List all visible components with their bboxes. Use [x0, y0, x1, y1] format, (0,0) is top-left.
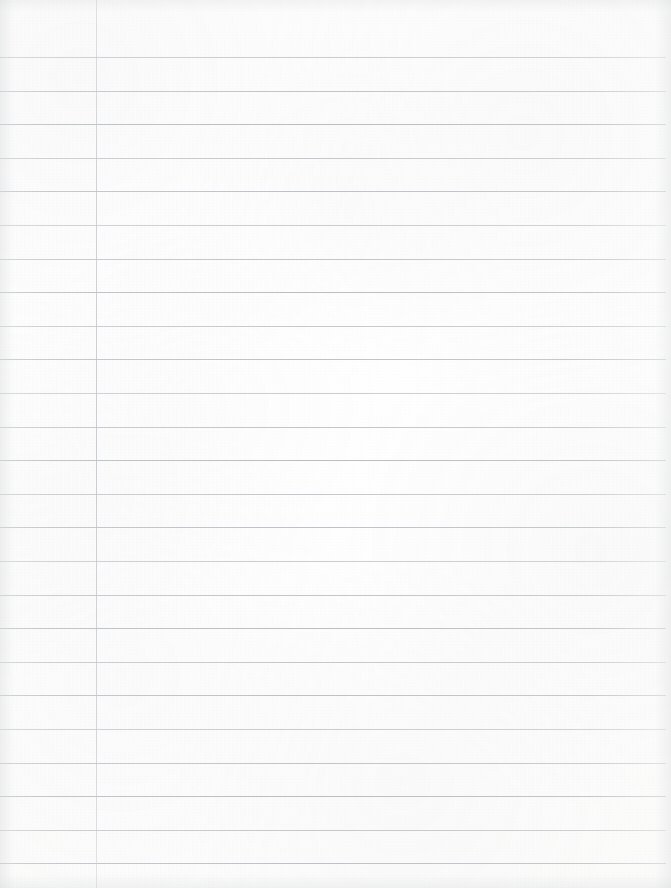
paper-background: [0, 0, 671, 888]
notebook-page: [0, 0, 671, 888]
